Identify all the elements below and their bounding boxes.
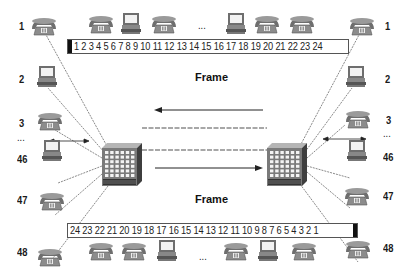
top-frame-strip: 1 2 3 4 5 6 7 8 9 10 11 12 13 14 15 16 1… <box>67 39 349 54</box>
mux-port-cell <box>115 165 118 168</box>
frame-label-bottom: Frame <box>195 193 228 205</box>
mux-port-cell <box>131 165 134 168</box>
mux-port-cell <box>131 156 134 159</box>
mux-port-cell <box>126 151 129 154</box>
left-phone-3-icon <box>38 113 62 130</box>
mux-port-cell <box>126 156 129 159</box>
mux-port-cell <box>121 160 124 163</box>
mux-port-cell <box>115 174 118 177</box>
bottom-frame-strip: 24 23 22 21 20 19 18 17 16 15 14 13 12 1… <box>67 223 358 238</box>
mux-port-cell <box>275 174 278 177</box>
mux-port-cell <box>280 151 283 154</box>
mux-port-cell <box>131 174 134 177</box>
right-phone-48-icon <box>346 241 370 258</box>
mux-port-cell <box>275 160 278 163</box>
top-phone-icon <box>89 16 113 33</box>
mux-port-cell <box>280 174 283 177</box>
right-label-1: 1 <box>385 20 390 32</box>
mux-port-cell <box>275 169 278 172</box>
mux-port-cell <box>275 165 278 168</box>
bottom-phone-icon <box>122 243 146 260</box>
mux-port-cell <box>280 169 283 172</box>
top-row-ellipsis: ... <box>198 19 206 31</box>
right-label-3: 3 <box>386 114 391 126</box>
mux-port-cell <box>270 169 273 172</box>
mux-port-cell <box>115 169 118 172</box>
mux-port-cell <box>110 174 113 177</box>
mux-port-cell <box>296 165 299 168</box>
mux-port-cell <box>131 151 134 154</box>
mux-port-cell <box>115 151 118 154</box>
left-computer-46-icon <box>42 140 62 161</box>
mux-port-cell <box>105 174 108 177</box>
left-label-48: 48 <box>17 246 27 258</box>
mux-port-cell <box>115 160 118 163</box>
left-multiplexer <box>102 143 142 186</box>
left-phone-1-icon <box>32 18 56 35</box>
right-phone-47-icon <box>345 188 369 205</box>
mux-port-cell <box>296 169 299 172</box>
left-phone-48-icon <box>38 249 62 266</box>
left-label-2: 2 <box>19 73 24 85</box>
mux-port-cell <box>110 151 113 154</box>
mux-port-cell <box>270 174 273 177</box>
mux-port-cell <box>270 165 273 168</box>
mux-port-cell <box>126 174 129 177</box>
mux-port-cell <box>126 165 129 168</box>
mux-port-cell <box>126 169 129 172</box>
bottom-computer-icon <box>258 240 278 261</box>
mux-port-cell <box>105 165 108 168</box>
mux-port-cell <box>286 169 289 172</box>
mux-port-cell <box>286 160 289 163</box>
mux-port-cell <box>296 174 299 177</box>
mux-port-cell <box>110 160 113 163</box>
mux-port-cell <box>105 169 108 172</box>
top-computer-icon <box>226 13 246 34</box>
frame-label-top: Frame <box>195 71 228 83</box>
mux-port-cell <box>286 156 289 159</box>
mux-port-cell <box>286 174 289 177</box>
mux-port-cell <box>296 151 299 154</box>
top-phone-icon <box>290 16 314 33</box>
bottom-phone-icon <box>89 243 113 260</box>
top-phone-icon <box>255 16 279 33</box>
right-label-46: 46 <box>383 151 393 163</box>
mux-port-cell <box>126 160 129 163</box>
mux-port-cell <box>296 156 299 159</box>
left-label-1: 1 <box>19 20 24 32</box>
mux-port-cell <box>121 156 124 159</box>
left-label-3: 3 <box>19 117 24 129</box>
mux-port-cell <box>291 160 294 163</box>
right-label-48: 48 <box>383 242 393 254</box>
top-phone-icon <box>152 16 176 33</box>
mux-port-cell <box>131 169 134 172</box>
mux-port-cell <box>121 169 124 172</box>
mux-port-cell <box>280 160 283 163</box>
right-phone-1-icon <box>350 18 374 35</box>
left-label-ellipsis: ... <box>17 131 25 143</box>
mux-port-cell <box>291 151 294 154</box>
right-phone-3-icon <box>346 111 370 128</box>
mux-port-cell <box>270 156 273 159</box>
bottom-computer-icon <box>157 240 177 261</box>
mux-port-cell <box>121 174 124 177</box>
mux-port-cell <box>291 174 294 177</box>
mux-port-cell <box>270 160 273 163</box>
right-multiplexer <box>267 143 307 186</box>
mux-port-cell <box>110 169 113 172</box>
right-label-47: 47 <box>383 190 393 202</box>
mux-port-cell <box>110 156 113 159</box>
left-label-47: 47 <box>17 194 27 206</box>
right-computer-2-icon <box>346 66 366 87</box>
mux-port-cell <box>280 165 283 168</box>
left-phone-47-icon <box>40 193 64 210</box>
right-label-2: 2 <box>385 73 390 85</box>
top-computer-icon <box>121 13 141 34</box>
left-label-46: 46 <box>17 153 27 165</box>
mux-port-cell <box>286 151 289 154</box>
mux-port-cell <box>296 160 299 163</box>
right-label-ellipsis: ... <box>383 127 391 139</box>
mux-port-cell <box>105 156 108 159</box>
mux-port-cell <box>275 151 278 154</box>
arrow-left-icon <box>154 107 263 113</box>
